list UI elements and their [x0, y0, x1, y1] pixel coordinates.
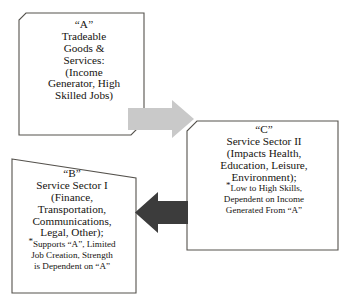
box-b-line-1: Service Sector I: [8, 180, 136, 192]
box-a-line-3: Services:: [23, 55, 145, 67]
box-c-line-3: Education, Leisure,: [190, 160, 338, 172]
box-b-line-3: Transportation,: [8, 204, 136, 216]
box-c-footnote: *Low to High Skills, Dependent on Income…: [190, 183, 338, 215]
diagram-canvas: “A” Tradeable Goods & Services: (Income …: [0, 0, 350, 303]
box-c-line-2: (Impacts Health,: [190, 148, 338, 160]
box-c-line-1: Service Sector II: [190, 136, 338, 148]
box-a-line-6: Skilled Jobs): [23, 90, 145, 102]
box-c-note-2: Generated From “A”: [190, 205, 338, 216]
box-a-line-1: Tradeable: [23, 31, 145, 43]
box-a-label: “A” Tradeable Goods & Services: (Income …: [23, 19, 145, 102]
box-c-label: “C” Service Sector II (Impacts Health, E…: [190, 124, 338, 216]
box-a-line-2: Goods &: [23, 43, 145, 55]
box-b-note-1: Job Creation, Strength: [8, 250, 136, 261]
box-b-note-2: is Dependent on “A”: [8, 261, 136, 272]
arrow-c-to-b-shape: [135, 192, 188, 233]
box-b-note-0: *Supports “A”, Limited: [8, 239, 136, 250]
box-c-line-4: Environment);: [190, 172, 338, 184]
box-b-footnote: *Supports “A”, Limited Job Creation, Str…: [8, 239, 136, 271]
box-b-line-2: (Finance,: [8, 192, 136, 204]
box-b-note-0-text: Supports “A”, Limited: [33, 239, 116, 249]
box-b-line-5: Legal, Other);: [8, 227, 136, 239]
box-c-note-1: Dependent on Income: [190, 194, 338, 205]
box-b-label: “B” Service Sector I (Finance, Transport…: [8, 168, 136, 271]
box-c-note-0-text: Low to High Skills,: [230, 183, 302, 193]
box-c-note-0: *Low to High Skills,: [190, 183, 338, 194]
